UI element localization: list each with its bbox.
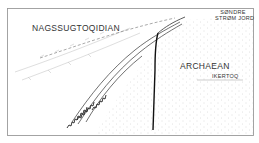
geological-map — [0, 0, 259, 143]
label-stromfjord: STRØM JORD — [215, 15, 251, 21]
label-archaean: ARCHAEAN — [180, 61, 230, 71]
label-ikertoq: IKERTOQ — [212, 73, 239, 79]
label-nagssugtoqidian: NAGSSUGTOQIDIAN — [32, 23, 120, 33]
foliation-ticks — [15, 28, 140, 80]
label-sondre-stromfjord: SØNDRE STRØM JORD — [215, 9, 251, 21]
